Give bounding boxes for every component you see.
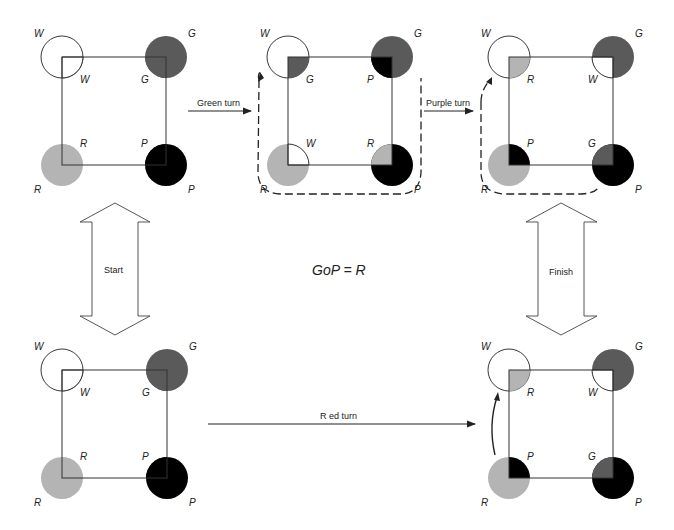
inner-label: W <box>80 74 91 85</box>
outer-label: P <box>189 497 196 508</box>
inner-label: W <box>306 138 317 149</box>
diagram-start-bottom: WWGGRRPP <box>34 341 197 508</box>
inner-label: R <box>367 138 374 149</box>
outer-label: G <box>189 341 197 352</box>
outer-label: G <box>188 28 196 39</box>
inner-label: P <box>367 74 374 85</box>
finish-label: Finish <box>549 267 573 277</box>
outer-label: W <box>481 341 492 352</box>
inner-label: P <box>527 138 534 149</box>
outer-label: G <box>635 28 643 39</box>
outer-label: W <box>481 28 492 39</box>
inner-label: W <box>80 387 91 398</box>
outer-label: P <box>188 184 195 195</box>
inner-label: W <box>588 74 599 85</box>
outer-label: P <box>635 184 642 195</box>
inner-label: R <box>527 387 534 398</box>
outer-label: G <box>414 28 422 39</box>
inner-label: P <box>141 138 148 149</box>
inner-label: R <box>80 451 87 462</box>
green-turn-label: Green turn <box>197 98 240 108</box>
outer-label: R <box>481 497 488 508</box>
inner-label: R <box>527 74 534 85</box>
square-frame <box>62 370 167 478</box>
diagram-after-green: WGGPRWPR <box>260 28 422 195</box>
outer-label: R <box>34 184 41 195</box>
red-cycle-curved-arrow <box>492 397 497 455</box>
diagram-after-red: WRGWRPPG <box>481 341 643 508</box>
inner-quadrant-P-br <box>146 457 167 478</box>
square-frame <box>288 57 392 165</box>
inner-label: G <box>306 74 314 85</box>
inner-label: W <box>588 387 599 398</box>
inner-label: R <box>80 138 87 149</box>
equation: GoP = R <box>312 262 366 278</box>
diagram-start-top: WWGGRRPP <box>34 28 196 195</box>
inner-label: P <box>527 451 534 462</box>
square-frame <box>62 57 166 165</box>
red-turn-label: R ed turn <box>320 411 357 421</box>
outer-label: W <box>260 28 271 39</box>
inner-label: G <box>588 451 596 462</box>
purple-turn-label: Purple turn <box>426 98 470 108</box>
diagram-after-purple: WRGWRPPG <box>481 28 643 195</box>
inner-quadrant-P-br <box>145 144 166 165</box>
inner-label: G <box>141 74 149 85</box>
inner-quadrant-P-tr <box>371 57 392 78</box>
inner-label: G <box>588 138 596 149</box>
outer-label: P <box>635 497 642 508</box>
outer-label: G <box>635 341 643 352</box>
inner-label: G <box>142 387 150 398</box>
inner-label: P <box>142 451 149 462</box>
outer-label: R <box>34 497 41 508</box>
outer-label: W <box>34 28 45 39</box>
start-label: Start <box>104 265 124 275</box>
outer-label: W <box>34 341 45 352</box>
permutation-diagram: WWGGRRPPWGGPRWPRWRGWRPPGWWGGRRPPWRGWRPPG… <box>0 0 674 530</box>
